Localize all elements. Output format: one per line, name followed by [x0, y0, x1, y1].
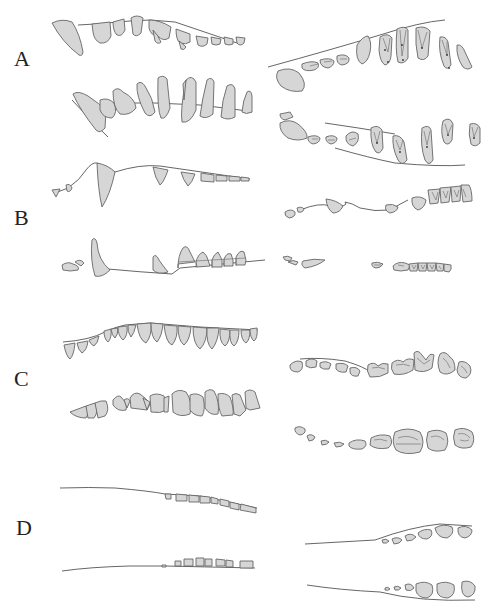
panel-d-lower-occlusal [307, 581, 475, 600]
panel-a-upper-occlusal [268, 20, 472, 91]
panel-d-upper-lateral [60, 488, 257, 514]
panel-c-upper-occlusal [290, 351, 471, 378]
panel-c-lower-occlusal [295, 427, 474, 454]
panel-b-upper-occlusal [285, 185, 472, 218]
figure-drawings [0, 0, 495, 614]
panel-a-lower-occlusal [280, 112, 480, 166]
panel-d-upper-occlusal [305, 524, 472, 544]
dental-figure: A B C D [0, 0, 495, 614]
panel-a-upper-lateral [52, 16, 245, 56]
panel-d-lower-lateral [62, 558, 255, 571]
panel-b-upper-lateral [52, 163, 250, 207]
panel-c-lower-lateral [70, 390, 260, 418]
panel-b-lower-lateral [62, 239, 265, 277]
panel-b-lower-occlusal [283, 256, 451, 272]
panel-c-upper-lateral [63, 323, 258, 359]
panel-a-lower-lateral [72, 76, 252, 137]
